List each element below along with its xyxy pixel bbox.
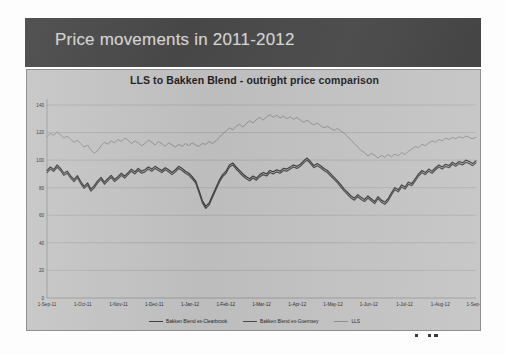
x-tick-label: 1-Sep-12 [467, 302, 481, 307]
scan-artifact-3 [434, 334, 438, 337]
scan-artifact-1 [415, 334, 418, 337]
legend-swatch [334, 321, 348, 322]
chart-legend: Bakken Blend ex-ClearbrookBakken Blend e… [27, 319, 481, 324]
x-tick-label: 1-Apr-12 [288, 302, 306, 307]
x-tick-label: 1-Jan-12 [181, 302, 200, 307]
chart-panel: LLS to Bakken Blend - outright price com… [26, 69, 481, 331]
x-tick-label: 1-Sep-11 [38, 302, 57, 307]
slide-root: Price movements in 2011-2012 LLS to Bakk… [0, 0, 505, 355]
y-tick-label: 120 [36, 130, 44, 135]
line-chart-plot: 0204060801001201401-Sep-111-Oct-111-Nov-… [27, 70, 481, 331]
slide-title: Price movements in 2011-2012 [55, 30, 295, 50]
x-tick-label: 1-May-12 [323, 302, 343, 307]
x-tick-label: 1-Feb-12 [216, 302, 235, 307]
y-tick-label: 0 [41, 296, 44, 301]
legend-swatch [243, 321, 257, 322]
legend-label: Bakken Blend ex-Guernsey [260, 319, 318, 324]
y-tick-label: 100 [36, 158, 44, 163]
x-tick-label: 1-Mar-12 [252, 302, 271, 307]
legend-item[interactable]: Bakken Blend ex-Clearbrook [149, 319, 227, 324]
x-tick-label: 1-Jul-12 [396, 302, 413, 307]
x-tick-label: 1-Oct-11 [74, 302, 92, 307]
slide-title-band: Price movements in 2011-2012 [25, 18, 481, 67]
x-tick-label: 1-Nov-11 [109, 302, 128, 307]
legend-label: Bakken Blend ex-Clearbrook [166, 319, 227, 324]
legend-item[interactable]: LLS [334, 319, 360, 324]
series-line [47, 115, 476, 158]
y-tick-label: 60 [39, 213, 45, 218]
y-tick-label: 80 [39, 186, 45, 191]
x-tick-label: 1-Jun-12 [360, 302, 379, 307]
series-line [47, 160, 476, 208]
legend-label: LLS [351, 319, 360, 324]
y-tick-label: 140 [36, 103, 44, 108]
scan-artifact-2 [428, 334, 431, 337]
series-line [47, 158, 476, 206]
legend-item[interactable]: Bakken Blend ex-Guernsey [243, 319, 318, 324]
x-tick-label: 1-Aug-12 [431, 302, 450, 307]
legend-swatch [149, 321, 163, 322]
y-tick-label: 20 [39, 268, 45, 273]
y-tick-label: 40 [39, 241, 45, 246]
x-tick-label: 1-Dec-11 [145, 302, 164, 307]
